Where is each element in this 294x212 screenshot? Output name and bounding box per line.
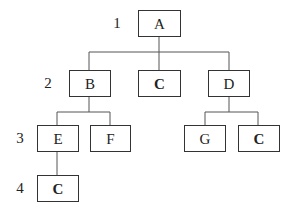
- level-labels: 1 2 3 4: [16, 15, 121, 196]
- node-f-label: F: [106, 131, 114, 147]
- edges: [57, 36, 258, 175]
- node-c-level3-label: C: [254, 131, 265, 147]
- node-f: F: [91, 126, 131, 152]
- node-c-level2-label: C: [154, 76, 165, 92]
- node-c-level2: C: [139, 71, 181, 97]
- node-g-label: G: [200, 131, 211, 147]
- node-c-level4-label: C: [53, 181, 64, 197]
- level-label-4: 4: [16, 180, 24, 196]
- node-c-level4: C: [38, 176, 79, 202]
- node-d-label: D: [224, 76, 235, 92]
- level-label-1: 1: [113, 15, 121, 31]
- node-a: A: [139, 11, 181, 37]
- node-c-level3: C: [239, 126, 280, 152]
- node-b: B: [70, 71, 111, 97]
- node-b-label: B: [85, 76, 95, 92]
- tree-svg: 1 2 3 4 A B C D E F: [0, 0, 294, 212]
- node-d: D: [209, 71, 250, 97]
- node-g: G: [185, 126, 226, 152]
- level-label-3: 3: [16, 130, 24, 146]
- level-label-2: 2: [44, 75, 52, 91]
- node-a-label: A: [154, 16, 165, 32]
- tree-diagram: 1 2 3 4 A B C D E F: [0, 0, 294, 212]
- node-e: E: [38, 126, 79, 152]
- node-e-label: E: [53, 131, 62, 147]
